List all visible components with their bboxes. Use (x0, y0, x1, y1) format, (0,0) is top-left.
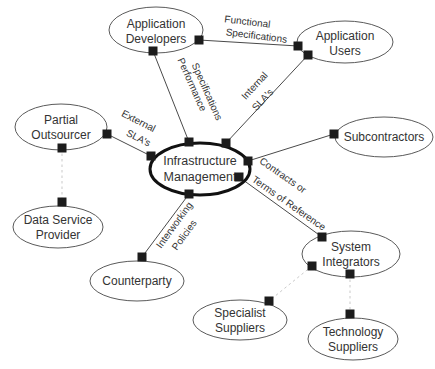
application-users-label: Users (329, 44, 360, 58)
node-counterparty: Counterparty (90, 261, 184, 301)
edge-integrators-specialist (269, 266, 312, 301)
partial-outsourcer-label: Partial (44, 113, 78, 127)
counterparty-label: Counterparty (102, 274, 171, 288)
node-partial-outsourcer: Partial Outsourcer (15, 104, 107, 150)
technology-suppliers-label: Suppliers (328, 340, 378, 354)
connector-square (304, 51, 313, 60)
diagram-canvas: Application Developers Application Users… (0, 0, 435, 369)
connector-square (185, 190, 194, 199)
connector-square (308, 262, 317, 271)
subcontractors-label: Subcontractors (344, 130, 425, 144)
connector-square (185, 138, 194, 147)
connector-square (265, 297, 274, 306)
infrastructure-management-ellipse (150, 143, 250, 195)
specialist-suppliers-label: Suppliers (215, 321, 265, 335)
partial-outsourcer-label: Outsourcer (31, 128, 90, 142)
partial-outsourcer-ellipse (15, 104, 107, 150)
connector-square (235, 173, 244, 182)
connector-square (346, 310, 355, 319)
specialist-suppliers-label: Specialist (214, 306, 266, 320)
connector-square (346, 270, 355, 279)
node-application-developers: Application Developers (109, 7, 203, 53)
connector-square (58, 198, 67, 207)
nodes: Application Developers Application Users… (13, 7, 433, 360)
diagram: Application Developers Application Users… (0, 0, 435, 369)
edge-center-subcontractors (248, 134, 334, 161)
edge-label-external-slas: External (120, 108, 158, 134)
connector-square (244, 157, 253, 166)
node-technology-suppliers: Technology Suppliers (308, 318, 398, 360)
connector-square (195, 36, 204, 45)
data-service-provider-label: Provider (36, 228, 81, 242)
application-developers-label: Developers (126, 32, 187, 46)
connector-square (138, 253, 147, 262)
connector-square (330, 130, 339, 139)
application-developers-label: Application (127, 17, 186, 31)
technology-suppliers-label: Technology (323, 325, 384, 339)
system-integrators-label: Integrators (322, 255, 379, 269)
data-service-provider-label: Data Service (24, 213, 93, 227)
node-subcontractors: Subcontractors (335, 117, 433, 157)
connector-square (147, 152, 156, 161)
node-infrastructure-management: Infrastructure Management (150, 143, 250, 195)
application-users-label: Application (316, 29, 375, 43)
infrastructure-management-label: Management (164, 170, 237, 184)
connector-square (222, 139, 231, 148)
node-data-service-provider: Data Service Provider (13, 206, 103, 248)
connector-square (149, 47, 158, 56)
connector-square (294, 42, 303, 51)
node-specialist-suppliers: Specialist Suppliers (193, 300, 287, 340)
connector-square (58, 144, 67, 153)
connector-square (318, 233, 327, 242)
connector-square (103, 130, 112, 139)
system-integrators-label: System (331, 240, 371, 254)
edge-center-integrators (239, 177, 322, 237)
infrastructure-management-label: Infrastructure (163, 154, 237, 168)
